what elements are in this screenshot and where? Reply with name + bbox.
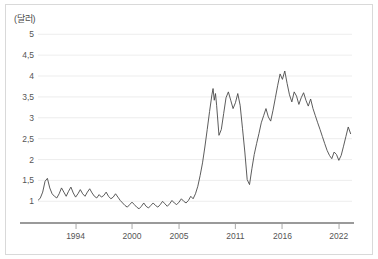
x-axis-tick-mark [338, 224, 339, 229]
x-axis-tick: 2000 [123, 224, 142, 241]
x-axis-tick: 1994 [66, 224, 85, 241]
y-axis-tick-label: 1,5 [4, 175, 34, 185]
x-axis-tick: 2022 [329, 224, 348, 241]
y-axis-unit-label: (달러) [14, 12, 35, 25]
x-axis-tick-mark [235, 224, 236, 229]
line-chart-svg [38, 28, 352, 218]
x-axis-tick-label: 2016 [273, 231, 292, 241]
y-gridlines [38, 34, 352, 201]
x-axis-tick: 2016 [273, 224, 292, 241]
y-axis-tick-label: 3,5 [4, 92, 34, 102]
x-axis-tick: 2011 [226, 224, 244, 241]
x-axis-tick-mark [179, 224, 180, 229]
x-axis-tick-label: 1994 [66, 231, 85, 241]
x-axis-tick-labels: 199420002005201120162022 [38, 224, 352, 246]
y-axis-tick-label: 4,5 [4, 50, 34, 60]
price-line-series [38, 71, 351, 209]
y-axis-tick-label: 2,5 [4, 134, 34, 144]
x-axis-tick-mark [131, 224, 132, 229]
plot-area [38, 28, 352, 218]
x-axis-tick-label: 2005 [170, 231, 189, 241]
x-axis-tick-label: 2000 [123, 231, 142, 241]
y-axis-tick-label: 5 [4, 29, 34, 39]
x-axis-tick-mark [282, 224, 283, 229]
y-axis-tick-label: 1 [4, 196, 34, 206]
y-axis-tick-label: 3 [4, 113, 34, 123]
y-axis-tick-labels: 54,543,532,521,51 [0, 28, 34, 218]
y-axis-tick-label: 4 [4, 71, 34, 81]
x-axis-tick-mark [75, 224, 76, 229]
x-axis-tick-label: 2011 [226, 231, 244, 241]
x-axis-tick-label: 2022 [329, 231, 348, 241]
y-axis-tick-label: 2 [4, 155, 34, 165]
chart-figure: (달러) 54,543,532,521,51 19942000200520112… [0, 0, 378, 259]
x-axis-tick: 2005 [170, 224, 189, 241]
